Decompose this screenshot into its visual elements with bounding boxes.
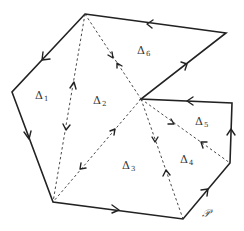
polygon-label: 𝒫 (202, 207, 213, 220)
diagonal-C-G (53, 99, 141, 202)
svg-text:Δ: Δ (122, 159, 130, 172)
triangle-label-4: Δ 4 (180, 153, 194, 167)
svg-text:Δ: Δ (93, 94, 101, 107)
triangle-label-5: Δ 5 (195, 115, 208, 129)
arrow-icon-diag-C-E-down (168, 119, 174, 124)
svg-text:Δ: Δ (137, 44, 145, 57)
svg-text:5: 5 (204, 121, 208, 129)
svg-text:1: 1 (44, 95, 48, 103)
arrow-icon-diag-A-C-up (117, 63, 122, 68)
svg-text:4: 4 (189, 159, 194, 167)
triangle-label-6: Δ 6 (137, 44, 151, 58)
svg-text:3: 3 (131, 165, 135, 173)
arrow-icon-edge-G-F (112, 205, 119, 213)
svg-text:2: 2 (102, 100, 106, 108)
diagonal-C-F (141, 99, 183, 219)
arrow-icon-diag-C-F-up (163, 170, 170, 176)
arrow-icon-edge-B-A (147, 20, 153, 28)
svg-text:Δ: Δ (35, 89, 43, 102)
triangle-label-1: Δ 1 (35, 89, 48, 103)
arrow-icon-diag-C-E-up (201, 142, 207, 148)
svg-text:Δ: Δ (195, 115, 203, 128)
svg-text:6: 6 (146, 50, 151, 58)
triangulated-polygon-diagram: Δ 1 Δ 2 Δ 3 Δ 4 Δ 5 Δ 6 𝒫 (0, 0, 244, 231)
triangle-label-3: Δ 3 (122, 159, 135, 173)
triangle-label-2: Δ 2 (93, 94, 106, 108)
svg-text:Δ: Δ (180, 153, 188, 166)
